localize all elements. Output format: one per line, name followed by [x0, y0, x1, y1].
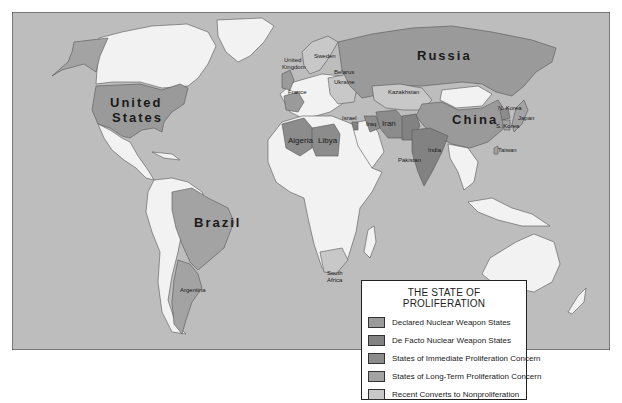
label-united-kingdom-2: Kingdom	[282, 64, 306, 70]
legend-label: Declared Nuclear Weapon States	[392, 318, 511, 327]
legend-swatch	[368, 353, 385, 364]
label-ukraine: Ukraine	[334, 79, 355, 85]
label-n-korea: N. Korea	[498, 105, 522, 111]
label-united-states: United	[110, 95, 162, 110]
label-japan: Japan	[518, 115, 534, 121]
legend-swatch	[368, 389, 385, 400]
legend-title: THE STATE OF PROLIFERATION	[368, 287, 520, 309]
legend-label: States of Long-Term Proliferation Concer…	[392, 372, 541, 381]
label-taiwan: Taiwan	[498, 147, 517, 153]
label-pakistan: Pakistan	[398, 157, 421, 163]
legend-item-de-facto: De Facto Nuclear Weapon States	[368, 331, 520, 349]
label-france: France	[288, 89, 307, 95]
label-brazil: Brazil	[194, 215, 241, 230]
label-united-states-2: States	[112, 110, 163, 125]
label-argentina: Argentina	[180, 287, 206, 293]
legend-item-declared: Declared Nuclear Weapon States	[368, 313, 520, 331]
label-russia: Russia	[417, 48, 472, 63]
label-south-africa: South	[327, 270, 343, 276]
label-united-kingdom: United	[284, 57, 301, 63]
label-south-africa-2: Africa	[327, 277, 343, 283]
label-iraq: Iraq	[366, 121, 376, 127]
label-sweden: Sweden	[314, 53, 336, 59]
label-kazakhstan: Kazakhstan	[388, 89, 419, 95]
legend-label: De Facto Nuclear Weapon States	[392, 336, 511, 345]
label-china: China	[452, 112, 498, 127]
legend-swatch	[368, 371, 385, 382]
label-india: India	[428, 147, 442, 153]
label-libya: Libya	[318, 136, 338, 145]
legend-item-immediate-concern: States of Immediate Proliferation Concer…	[368, 349, 520, 367]
legend-label: Recent Converts to Nonproliferation	[392, 390, 519, 399]
label-iran: Iran	[382, 119, 396, 128]
label-israel: Israel	[342, 115, 357, 121]
legend: THE STATE OF PROLIFERATION Declared Nucl…	[361, 280, 527, 400]
label-s-korea: S. Korea	[496, 123, 520, 129]
legend-swatch	[368, 335, 385, 346]
legend-label: States of Immediate Proliferation Concer…	[392, 354, 541, 363]
label-algeria: Algeria	[288, 136, 313, 145]
label-belarus: Belarus	[334, 69, 354, 75]
legend-item-recent-converts: Recent Converts to Nonproliferation	[368, 385, 520, 403]
legend-item-long-term-concern: States of Long-Term Proliferation Concer…	[368, 367, 520, 385]
legend-swatch	[368, 317, 385, 328]
